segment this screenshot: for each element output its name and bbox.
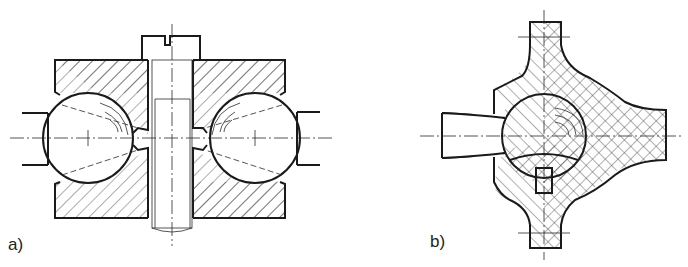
technical-drawing — [0, 0, 688, 267]
bolt — [142, 36, 200, 232]
subfigure-label-b: b) — [430, 232, 445, 252]
figure-b — [420, 10, 683, 260]
subfigure-label-a: a) — [8, 235, 23, 255]
figure-a — [10, 24, 332, 246]
bottom-left-die-block — [55, 150, 148, 182]
bolt-head — [142, 36, 200, 60]
left-shank — [22, 113, 48, 165]
